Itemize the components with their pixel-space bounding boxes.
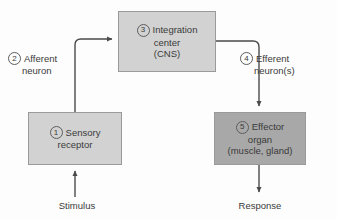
efferent-neuron-label: Efferent xyxy=(256,53,289,65)
box-integration-center: 3 Integration center (CNS) xyxy=(118,11,216,72)
caption-stimulus: Stimulus xyxy=(47,200,107,211)
step-number-3: 3 xyxy=(137,24,150,37)
afferent-neuron-label: Afferent xyxy=(24,53,57,65)
effector-organ-line-3: (muscle, gland) xyxy=(228,145,293,157)
box-effector-organ: 5 Effector organ (muscle, gland) xyxy=(214,112,306,165)
efferent-neuron-line-2: neuron(s) xyxy=(240,65,295,77)
reflex-arc-diagram: 3 Integration center (CNS) 1 Sensory rec… xyxy=(0,0,337,220)
effector-organ-label: Effector xyxy=(252,121,285,133)
caption-response: Response xyxy=(228,200,292,211)
effector-organ-line-1: 5 Effector xyxy=(236,121,285,134)
efferent-neuron-line-1: 4 Efferent xyxy=(240,52,295,65)
integration-center-label: Integration xyxy=(153,24,198,36)
integration-center-line-1: 3 Integration xyxy=(137,24,198,37)
label-efferent-neuron: 4 Efferent neuron(s) xyxy=(240,52,295,77)
step-number-4: 4 xyxy=(240,52,253,65)
arrow-receptor-to-integration xyxy=(75,39,112,112)
afferent-neuron-line-1: 2 Afferent xyxy=(8,52,57,65)
sensory-receptor-line-1: 1 Sensory xyxy=(50,126,101,139)
step-number-2: 2 xyxy=(8,52,21,65)
sensory-receptor-line-2: receptor xyxy=(58,139,93,151)
label-afferent-neuron: 2 Afferent neuron xyxy=(8,52,57,77)
step-number-5: 5 xyxy=(236,121,249,134)
sensory-receptor-label: Sensory xyxy=(66,127,101,139)
afferent-neuron-line-2: neuron xyxy=(8,65,57,77)
integration-center-line-2: center xyxy=(154,37,180,49)
effector-organ-line-2: organ xyxy=(248,134,272,146)
step-number-1: 1 xyxy=(50,126,63,139)
integration-center-line-3: (CNS) xyxy=(154,48,180,60)
box-sensory-receptor: 1 Sensory receptor xyxy=(28,112,122,165)
